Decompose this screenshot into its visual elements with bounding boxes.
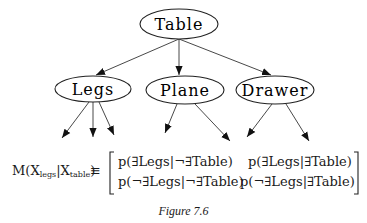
node-label-legs: Legs <box>72 80 115 99</box>
lhs-sub-table: table <box>70 170 90 179</box>
node-plane: Plane <box>146 76 224 104</box>
edge-legs-child-3 <box>99 102 114 135</box>
edge-table-drawer <box>179 39 271 75</box>
edges-from-drawer <box>247 104 309 141</box>
edges-from-plane <box>165 104 230 141</box>
matrix-cell-0-1: p(∃Legs|∃Table) <box>248 155 352 168</box>
lhs-m: M( <box>12 163 30 178</box>
node-label-plane: Plane <box>160 81 210 100</box>
tree-diagram: Table Legs Plane Drawer <box>0 0 367 223</box>
edges-from-table <box>96 39 271 75</box>
lhs-sub-legs: legs <box>40 170 57 179</box>
edge-plane-child-2 <box>195 104 230 141</box>
edge-table-legs <box>96 39 179 75</box>
matrix-left-bracket <box>110 152 114 194</box>
matrix-cell-1-0: p(¬∃Legs|¬∃Table) <box>118 175 244 188</box>
node-legs: Legs <box>55 76 131 102</box>
equation-lhs: M(Xlegs|Xtable) <box>12 164 95 177</box>
edge-drawer-child-1 <box>247 104 272 137</box>
node-label-table: Table <box>155 15 204 34</box>
node-label-drawer: Drawer <box>242 81 309 100</box>
edges-from-legs <box>62 102 114 138</box>
edge-drawer-child-2 <box>286 104 309 141</box>
node-drawer: Drawer <box>236 76 314 104</box>
figure-caption: Figure 7.6 <box>0 204 367 219</box>
edge-legs-child-1 <box>62 102 89 138</box>
equiv-symbol: ≡ <box>90 164 101 177</box>
matrix-cell-1-1: p(¬∃Legs|∃Table) <box>240 175 355 188</box>
edge-plane-child-1 <box>165 104 177 133</box>
lhs-x2: X <box>61 163 70 178</box>
matrix-cell-0-0: p(∃Legs|¬∃Table) <box>118 155 233 168</box>
node-table: Table <box>140 9 218 39</box>
lhs-x1: X <box>30 163 39 178</box>
